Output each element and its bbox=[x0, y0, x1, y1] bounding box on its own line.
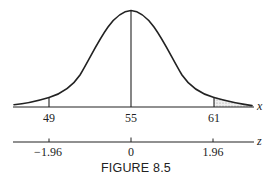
normal-curve bbox=[14, 11, 252, 106]
z-axis-variable: z bbox=[257, 135, 262, 147]
z-tick-label-1-96: 1.96 bbox=[203, 146, 224, 158]
x-tick-label-55: 55 bbox=[125, 112, 137, 124]
x-tick-label-49: 49 bbox=[43, 112, 55, 124]
z-tick-label-neg-1-96: −1.96 bbox=[34, 146, 62, 158]
x-tick-label-61: 61 bbox=[208, 112, 220, 124]
z-tick-label-0: 0 bbox=[128, 146, 134, 158]
normal-curve-plot bbox=[0, 0, 272, 188]
figure-8-5: 49 55 61 x −1.96 0 1.96 z FIGURE 8.5 bbox=[0, 0, 272, 188]
x-axis-variable: x bbox=[257, 100, 262, 112]
figure-caption: FIGURE 8.5 bbox=[0, 162, 272, 175]
